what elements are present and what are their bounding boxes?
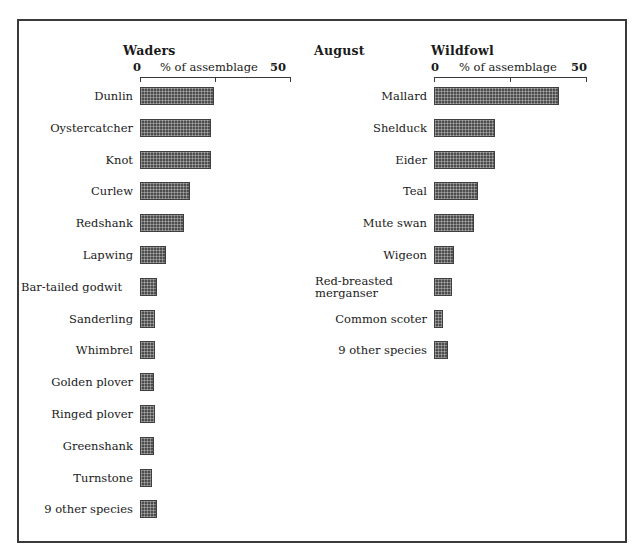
bar-row: Mallard: [434, 87, 586, 105]
waders-axis-tick-50: [290, 77, 291, 82]
waders-axis-tick-0: [140, 77, 141, 82]
bar: [140, 341, 155, 359]
bar: [434, 310, 443, 328]
bar: [140, 182, 190, 200]
waders-axis-max-label: 50: [270, 60, 286, 74]
bar: [140, 310, 155, 328]
bar-row: Knot: [140, 151, 290, 169]
bar-row: 9 other species: [140, 500, 290, 518]
bar: [140, 405, 155, 423]
bar-row: Wigeon: [434, 246, 586, 264]
bar: [434, 151, 495, 169]
bar-row-label: Dunlin: [94, 90, 133, 103]
bar: [140, 87, 214, 105]
bar: [434, 246, 454, 264]
bar-row: Whimbrel: [140, 341, 290, 359]
bar: [140, 214, 184, 232]
bar: [434, 214, 474, 232]
bar-row: Shelduck: [434, 119, 586, 137]
bar-row: 9 other species: [434, 341, 586, 359]
bar-row: Lapwing: [140, 246, 290, 264]
bar: [140, 500, 157, 518]
bar-row-label: 9 other species: [44, 503, 133, 516]
waders-panel-title: Waders: [123, 43, 176, 58]
bar-row: Bar-tailed godwit: [140, 278, 290, 296]
bar-row-label: Eider: [395, 153, 427, 166]
waders-axis-tick-25: [215, 77, 216, 82]
bar-row-label: Common scoter: [335, 312, 427, 325]
bar: [140, 246, 166, 264]
waders-axis-min-label: 0: [133, 60, 141, 74]
bar: [140, 469, 152, 487]
wildfowl-axis-max-label: 50: [571, 60, 587, 74]
bar-row: Teal: [434, 182, 586, 200]
bar-row-label: 9 other species: [338, 344, 427, 357]
bar-row-label: Greenshank: [63, 440, 133, 453]
bar-row: Red-breasted merganser: [434, 278, 586, 296]
bar-row-label: Knot: [105, 153, 133, 166]
bar-row: Ringed plover: [140, 405, 290, 423]
bar-row-label: Mute swan: [363, 217, 427, 230]
wildfowl-axis-tick-0: [434, 77, 435, 82]
waders-panel: Waders 0 % of assemblage 50 DunlinOyster…: [19, 21, 309, 541]
bar: [140, 151, 211, 169]
bar-row-label: Turnstone: [73, 471, 133, 484]
bar-row-label: Golden plover: [51, 376, 133, 389]
bar-row-label: Sanderling: [69, 312, 133, 325]
bar-row-label: Curlew: [91, 185, 133, 198]
wildfowl-panel: Wildfowl 0 % of assemblage 50 MallardShe…: [309, 21, 625, 541]
bar-row: Redshank: [140, 214, 290, 232]
wildfowl-axis-tick-25: [510, 77, 511, 82]
bar: [140, 373, 154, 391]
bar-row: Eider: [434, 151, 586, 169]
bar: [434, 119, 495, 137]
bar: [434, 341, 448, 359]
bar: [140, 278, 157, 296]
bar-row: Greenshank: [140, 437, 290, 455]
bar: [434, 278, 452, 296]
bar-row: Mute swan: [434, 214, 586, 232]
bar-row: Sanderling: [140, 310, 290, 328]
bar-row-label: Oystercatcher: [50, 122, 133, 135]
bar-row: Oystercatcher: [140, 119, 290, 137]
bar-row-label: Lapwing: [83, 249, 133, 262]
bar: [434, 87, 559, 105]
bar-row-label: Bar-tailed godwit: [21, 281, 131, 294]
bar-row: Common scoter: [434, 310, 586, 328]
bar-row: Golden plover: [140, 373, 290, 391]
bar-row-label: Mallard: [381, 90, 427, 103]
bar: [140, 119, 211, 137]
bar-row: Dunlin: [140, 87, 290, 105]
wildfowl-axis-min-label: 0: [431, 60, 439, 74]
wildfowl-axis-caption: % of assemblage: [459, 60, 557, 74]
bar-row-label: Shelduck: [373, 122, 427, 135]
bar-row-label: Redshank: [76, 217, 133, 230]
bar-row-label: Teal: [403, 185, 427, 198]
bar-row: Turnstone: [140, 469, 290, 487]
wildfowl-panel-title: Wildfowl: [431, 43, 494, 58]
bar-row: Curlew: [140, 182, 290, 200]
bar-row-label: Red-breasted merganser: [315, 274, 425, 299]
bar-row-label: Wigeon: [383, 249, 427, 262]
waders-axis-caption: % of assemblage: [160, 60, 258, 74]
bar: [140, 437, 154, 455]
bar-row-label: Whimbrel: [76, 344, 133, 357]
bar-row-label: Ringed plover: [51, 408, 133, 421]
chart-frame: Waders 0 % of assemblage 50 DunlinOyster…: [17, 19, 627, 543]
wildfowl-axis-tick-50: [586, 77, 587, 82]
bar: [434, 182, 478, 200]
